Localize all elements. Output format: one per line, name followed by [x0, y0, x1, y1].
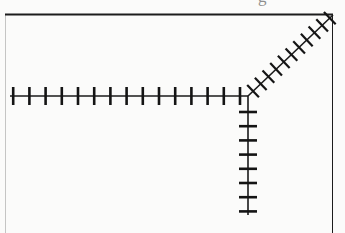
horizontal-axis	[10, 87, 248, 105]
figure-container: g	[0, 0, 345, 233]
vertical-axis	[239, 96, 257, 215]
plot-border	[5, 14, 333, 233]
axes-layer	[10, 12, 336, 215]
diagonal-axis	[247, 12, 335, 97]
three-axis-diagram	[0, 0, 345, 233]
